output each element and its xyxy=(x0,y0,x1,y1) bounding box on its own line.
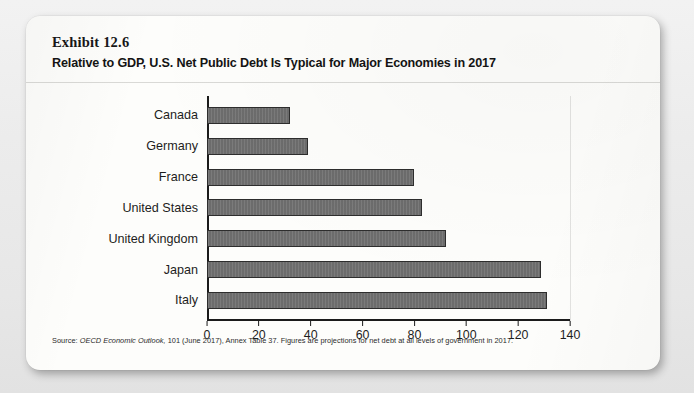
title-divider xyxy=(26,82,660,83)
x-tick-mark xyxy=(414,321,415,326)
source-publication: OECD Economic Outlook, xyxy=(80,336,166,345)
bar-chart: CanadaGermanyFranceUnited StatesUnited K… xyxy=(26,86,660,336)
bar-category-label: Italy xyxy=(175,293,198,307)
bar-category-label: United Kingdom xyxy=(108,232,198,246)
bar xyxy=(207,199,422,216)
x-tick-mark xyxy=(258,321,259,326)
exhibit-label: Exhibit 12.6 xyxy=(52,34,129,51)
bar-category-label: France xyxy=(159,170,198,184)
bar-category-label: United States xyxy=(122,201,198,215)
bar-category-label: Canada xyxy=(154,108,198,122)
bar xyxy=(207,107,290,124)
exhibit-title: Relative to GDP, U.S. Net Public Debt Is… xyxy=(52,56,496,70)
bar xyxy=(207,292,547,309)
card-inner: Exhibit 12.6 Relative to GDP, U.S. Net P… xyxy=(26,16,660,370)
x-tick-mark xyxy=(466,321,467,326)
x-tick-mark xyxy=(310,321,311,326)
source-prefix: Source: xyxy=(52,336,80,345)
bar-row: Japan xyxy=(207,261,570,278)
bar-category-label: Japan xyxy=(164,263,198,277)
x-tick-mark xyxy=(569,321,570,326)
plot-area: CanadaGermanyFranceUnited StatesUnited K… xyxy=(207,96,570,321)
bar-row: United Kingdom xyxy=(207,230,570,247)
bar-row: France xyxy=(207,169,570,186)
bars-container: CanadaGermanyFranceUnited StatesUnited K… xyxy=(207,96,570,321)
bar-row: Italy xyxy=(207,292,570,309)
x-tick-mark xyxy=(517,321,518,326)
bar xyxy=(207,138,308,155)
bar xyxy=(207,261,541,278)
bar xyxy=(207,230,446,247)
x-tick-mark xyxy=(362,321,363,326)
exhibit-card: Exhibit 12.6 Relative to GDP, U.S. Net P… xyxy=(26,16,660,370)
bar-row: Canada xyxy=(207,107,570,124)
x-tick-mark xyxy=(206,321,207,326)
source-rest: 101 (June 2017), Annex Table 37. Figures… xyxy=(166,336,514,345)
source-note: Source: OECD Economic Outlook, 101 (June… xyxy=(52,336,642,345)
bar xyxy=(207,169,414,186)
bar-row: United States xyxy=(207,199,570,216)
bar-category-label: Germany xyxy=(146,139,198,153)
bar-row: Germany xyxy=(207,138,570,155)
